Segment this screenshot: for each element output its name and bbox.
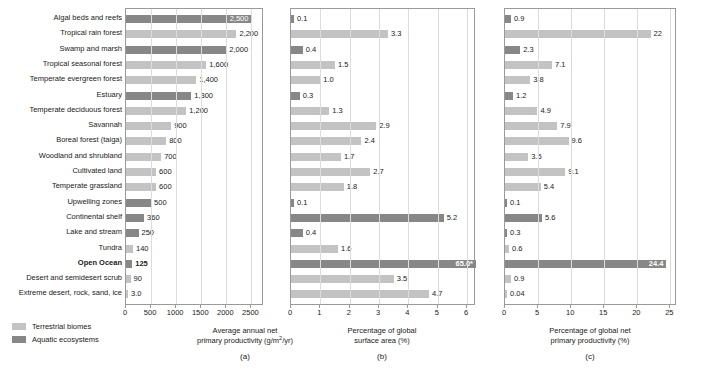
bar[interactable] <box>505 168 565 176</box>
bar[interactable] <box>505 260 666 268</box>
bar[interactable] <box>505 229 507 237</box>
x-axis-title-c-line1: Percentage of global net <box>500 326 680 336</box>
legend-swatch-icon <box>12 336 26 343</box>
bar[interactable] <box>291 183 344 191</box>
bar[interactable] <box>291 76 320 84</box>
bar-value-label: 2,000 <box>229 45 248 54</box>
bar[interactable] <box>291 107 329 115</box>
bar[interactable] <box>505 107 537 115</box>
bar-value-label: 1.5 <box>338 60 348 69</box>
bar[interactable] <box>505 122 557 130</box>
bar[interactable] <box>291 61 335 69</box>
bar[interactable] <box>291 30 388 38</box>
gridline <box>251 9 252 304</box>
bar[interactable] <box>126 290 128 298</box>
bar-row: 5.6 <box>505 214 677 222</box>
bar-value-label: 1.0 <box>323 75 333 84</box>
bar[interactable] <box>126 122 171 130</box>
bar-value-label: 125 <box>135 259 148 268</box>
bar-row: 1.7 <box>291 153 476 161</box>
bar[interactable] <box>505 137 569 145</box>
bar-value-label: 0.3 <box>510 228 520 237</box>
bar-row: 2.9 <box>291 122 476 130</box>
bar-value-label: 0.04 <box>510 289 525 298</box>
bar[interactable] <box>291 46 303 54</box>
bar[interactable] <box>126 245 133 253</box>
bar[interactable] <box>126 229 139 237</box>
bar[interactable] <box>291 92 300 100</box>
bar-rows-b: 0.13.30.41.51.00.31.32.92.41.72.71.80.15… <box>291 9 474 304</box>
bar[interactable] <box>505 214 542 222</box>
bar-row: 0.3 <box>505 229 677 237</box>
bar[interactable] <box>505 153 528 161</box>
bar-row: 90 <box>126 275 264 283</box>
bar[interactable] <box>126 153 161 161</box>
bar[interactable] <box>291 15 294 23</box>
x-axis-b: 0123456 <box>290 305 475 317</box>
bar-row: 600 <box>126 183 264 191</box>
bar-value-label: 4.9 <box>540 106 550 115</box>
bar[interactable] <box>291 168 370 176</box>
gridline <box>438 9 439 304</box>
bar-row: 1.6 <box>291 245 476 253</box>
bar-row: 2.7 <box>291 168 476 176</box>
bar[interactable] <box>291 245 338 253</box>
bar[interactable] <box>291 122 376 130</box>
bar[interactable] <box>505 290 507 298</box>
bar[interactable] <box>126 30 236 38</box>
bar-row: 65.0* <box>291 260 476 268</box>
bar[interactable] <box>291 260 476 268</box>
gridline <box>538 9 539 304</box>
bar[interactable] <box>505 183 541 191</box>
bar-value-label: 1,600 <box>209 60 228 69</box>
bar-row: 360 <box>126 214 264 222</box>
bar[interactable] <box>126 137 166 145</box>
x-tick-label: 1500 <box>192 308 209 317</box>
bar[interactable] <box>505 92 513 100</box>
bar[interactable] <box>126 275 131 283</box>
bar-row: 900 <box>126 122 264 130</box>
bar[interactable] <box>505 30 651 38</box>
bar[interactable] <box>505 199 507 207</box>
bar-value-label: 1.8 <box>347 182 357 191</box>
bar[interactable] <box>505 275 511 283</box>
bar-row: 4.9 <box>505 107 677 115</box>
category-label: Lake and stream <box>66 227 122 236</box>
bar[interactable] <box>505 46 520 54</box>
bar[interactable] <box>291 214 444 222</box>
bar[interactable] <box>126 92 191 100</box>
category-label: Savannah <box>88 120 122 129</box>
bar-value-label: 5.2 <box>447 213 457 222</box>
bar[interactable] <box>126 214 144 222</box>
bar-value-label: 0.4 <box>306 228 316 237</box>
bar-value-label: 9.1 <box>568 167 578 176</box>
bar[interactable] <box>291 137 361 145</box>
bar[interactable] <box>291 153 341 161</box>
bar-row: 3.3 <box>291 30 476 38</box>
bar[interactable] <box>291 229 303 237</box>
gridline <box>670 9 671 304</box>
bar[interactable] <box>291 199 294 207</box>
bar[interactable] <box>505 245 509 253</box>
x-axis-title-b: Percentage of global surface area (%) <box>292 326 472 346</box>
category-label: Swamp and marsh <box>59 44 122 53</box>
bar[interactable] <box>126 61 206 69</box>
bar-value-label: 9.6 <box>572 136 582 145</box>
bar[interactable] <box>505 61 552 69</box>
gridline <box>201 9 202 304</box>
bar[interactable] <box>505 15 511 23</box>
bar-value-label: 2.9 <box>379 121 389 130</box>
bar-row: 0.9 <box>505 275 677 283</box>
bar-value-label: 0.9 <box>514 14 524 23</box>
bar[interactable] <box>126 76 196 84</box>
x-tick-label: 5 <box>535 308 539 317</box>
bar-row: 1,200 <box>126 107 264 115</box>
bar[interactable] <box>505 76 530 84</box>
bar[interactable] <box>126 260 132 268</box>
x-tick-label: 2000 <box>217 308 234 317</box>
bar-value-label: 360 <box>147 213 160 222</box>
bar-value-label: 3.0 <box>131 289 141 298</box>
gridline <box>320 9 321 304</box>
bar[interactable] <box>126 107 186 115</box>
bar[interactable] <box>126 199 151 207</box>
